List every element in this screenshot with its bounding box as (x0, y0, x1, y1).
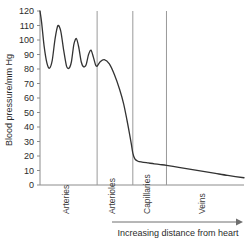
y-tick-label: 40 (24, 122, 34, 132)
chart-figure: 0102030405060708090100110120 Blood press… (0, 0, 249, 239)
x-axis-arrow-head (236, 219, 243, 226)
blood-pressure-curve (40, 11, 244, 178)
y-tick-label: 50 (24, 108, 34, 118)
y-axis-title: Blood pressure/mm Hg (4, 54, 14, 146)
y-tick-label: 20 (24, 151, 34, 161)
y-tick-label: 10 (24, 166, 34, 176)
region-labels: ArteriesArteriolesCapillariesVeins (61, 174, 208, 214)
region-label-capillaries: Capillaries (142, 174, 152, 214)
region-label-arterioles: Arterioles (107, 178, 117, 214)
y-tick-label: 100 (19, 35, 34, 45)
y-tick-label: 30 (24, 137, 34, 147)
x-axis-title: Increasing distance from heart (117, 228, 239, 238)
y-tick-label: 90 (24, 50, 34, 60)
y-tick-label: 0 (29, 180, 34, 190)
region-label-arteries: Arteries (61, 185, 71, 214)
region-divider-lines (97, 11, 166, 185)
y-tick-label: 60 (24, 93, 34, 103)
y-tick-label: 110 (20, 21, 34, 31)
y-tick-label: 80 (24, 64, 34, 74)
y-axis-tick-labels: 0102030405060708090100110120 (19, 6, 34, 190)
region-label-veins: Veins (197, 193, 207, 214)
y-tick-label: 120 (19, 6, 34, 16)
y-tick-label: 70 (24, 79, 34, 89)
y-axis-group: 0102030405060708090100110120 (19, 6, 40, 190)
blood-pressure-chart: 0102030405060708090100110120 Blood press… (0, 0, 249, 239)
x-axis-arrow-group (112, 219, 243, 226)
